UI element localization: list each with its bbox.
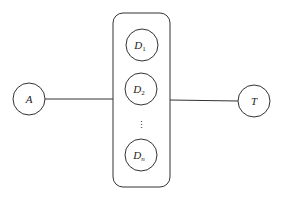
node-d2-base: D [132,83,141,95]
node-dn-sub: n [141,155,145,163]
vertical-ellipsis: ⋮ [137,120,146,130]
node-d2-sub: 2 [141,89,145,97]
node-dn: Dn [125,139,157,171]
node-a-label: A [25,93,33,105]
node-d2: D2 [125,73,157,105]
node-d1: D1 [126,29,158,61]
node-a: A [13,83,45,115]
node-dn-base: D [132,149,141,161]
node-t: T [238,85,270,117]
node-d1-sub: 1 [142,45,146,53]
edge-group-to-t [170,100,238,101]
node-d1-base: D [133,39,142,51]
node-t-label: T [251,95,258,107]
diagram-canvas: A T D1 D2 ⋮ Dn [0,0,282,198]
